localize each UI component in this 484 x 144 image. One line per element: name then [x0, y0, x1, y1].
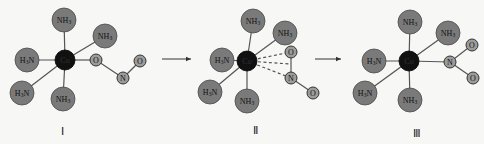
isomerization-diagram: NH3 NH3 H3N H3N NH3 Co O N O Ⅰ NH3 NH3 H…: [0, 0, 484, 144]
svg-text:O: O: [310, 89, 316, 98]
oxygen-atom: O: [307, 87, 319, 99]
ammine-ligand: H3N: [210, 48, 234, 72]
structure-label: Ⅱ: [253, 124, 258, 136]
ammine-ligand: NH3: [436, 21, 460, 45]
structure-iii: NH3 NH3 H3N H3N NH3 Co N O O Ⅲ: [353, 10, 479, 139]
cobalt-center: Co: [399, 51, 419, 71]
svg-text:O: O: [288, 48, 294, 57]
svg-text:O: O: [93, 56, 99, 65]
ammine-ligand: NH3: [241, 9, 265, 33]
svg-text:Co: Co: [404, 57, 413, 66]
ammine-ligand: NH3: [52, 8, 76, 32]
structure-i: NH3 NH3 H3N H3N NH3 Co O N O Ⅰ: [10, 8, 146, 137]
ammine-ligand: NH3: [235, 89, 259, 113]
ammine-ligand: NH3: [273, 21, 297, 45]
ammine-ligand: NH3: [398, 10, 422, 34]
nitrogen-atom: N: [285, 72, 297, 84]
svg-text:N: N: [288, 74, 294, 83]
structure-ii: NH3 NH3 H3N H3N NH3 Co O N O Ⅱ: [198, 9, 319, 136]
ammine-ligand: H3N: [362, 49, 386, 73]
oxygen-atom: O: [90, 54, 102, 66]
svg-text:O: O: [470, 74, 476, 83]
svg-text:Co: Co: [60, 56, 69, 65]
ammine-ligand: H3N: [15, 48, 39, 72]
structure-label: Ⅰ: [61, 125, 64, 137]
ammine-ligand: H3N: [353, 81, 377, 105]
svg-text:O: O: [469, 41, 475, 50]
cobalt-center: Co: [237, 51, 257, 71]
ammine-ligand: NH3: [51, 87, 75, 111]
svg-text:N: N: [447, 58, 453, 67]
ammine-ligand: NH3: [398, 88, 422, 112]
oxygen-atom: O: [134, 55, 146, 67]
ammine-ligand: H3N: [10, 81, 34, 105]
ammine-ligand: NH3: [93, 24, 117, 48]
oxygen-atom: O: [285, 46, 297, 58]
oxygen-atom: O: [467, 72, 479, 84]
cobalt-center: Co: [55, 50, 75, 70]
svg-text:Co: Co: [242, 57, 251, 66]
svg-text:N: N: [120, 74, 126, 83]
svg-text:O: O: [137, 57, 143, 66]
oxygen-atom: O: [466, 39, 478, 51]
nitrogen-atom: N: [117, 72, 129, 84]
structure-label: Ⅲ: [413, 127, 421, 139]
nitrogen-atom: N: [444, 56, 456, 68]
ammine-ligand: H3N: [198, 80, 222, 104]
